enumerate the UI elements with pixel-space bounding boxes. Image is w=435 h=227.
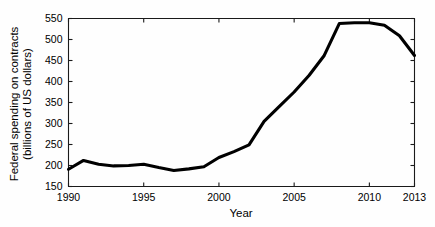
y-tick-label: 500 — [45, 33, 63, 45]
y-tick-label: 450 — [45, 54, 63, 66]
y-axis-title-line1: Federal spending on contracts — [8, 26, 20, 181]
x-tick-label: 2013 — [403, 191, 427, 203]
x-axis-title: Year — [229, 207, 252, 219]
x-tick-label: 2000 — [207, 191, 231, 203]
y-tick-label: 200 — [45, 159, 63, 171]
x-tick-label: 2005 — [282, 191, 306, 203]
y-tick-label: 350 — [45, 96, 63, 108]
y-axis-title-line2: (billions of US dollars) — [21, 48, 33, 160]
x-tick-label: 2010 — [358, 191, 382, 203]
y-tick-label: 250 — [45, 138, 63, 150]
x-tick-label: 1990 — [57, 191, 81, 203]
y-tick-label: 300 — [45, 117, 63, 129]
chart-figure: 150200250300350400450500550 199019952000… — [0, 0, 435, 227]
line-chart: 150200250300350400450500550 199019952000… — [0, 0, 435, 227]
y-axis-tick-labels: 150200250300350400450500550 — [45, 12, 63, 192]
x-tick-label: 1995 — [132, 191, 156, 203]
y-tick-label: 550 — [45, 12, 63, 24]
y-tick-label: 400 — [45, 75, 63, 87]
